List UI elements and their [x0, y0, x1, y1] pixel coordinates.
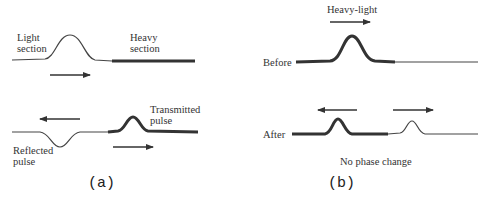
panel-a-caption: (a) — [88, 175, 115, 192]
pulse-reflection-diagram: Light section Heavy section Transmitted … — [0, 0, 487, 200]
transmitted-pulse-label-line2: pulse — [150, 115, 172, 127]
heavy-light-title: Heavy-light — [327, 4, 377, 16]
panel-b-after — [292, 110, 478, 134]
panel-b-before — [296, 22, 478, 62]
light-section-label-line2: section — [17, 43, 47, 55]
no-phase-change-note: No phase change — [340, 156, 412, 168]
diagram-graphics — [0, 0, 487, 200]
reflected-pulse-label-line2: pulse — [13, 156, 35, 168]
panel-b-caption: (b) — [328, 175, 355, 192]
transmitted-pulse-b — [388, 121, 478, 134]
after-label: After — [263, 129, 285, 141]
reflected-pulse-b — [292, 119, 388, 134]
before-label: Before — [263, 57, 292, 69]
heavy-string-before — [296, 36, 395, 62]
heavy-section-label-line2: section — [130, 43, 160, 55]
